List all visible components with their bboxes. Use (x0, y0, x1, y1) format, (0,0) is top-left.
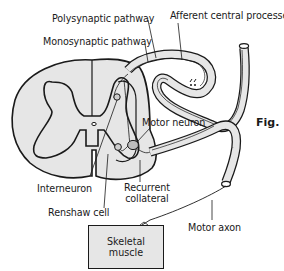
label-renshaw-cell: Renshaw cell (48, 207, 109, 218)
label-motor-axon: Motor axon (188, 222, 241, 233)
central-canal (92, 122, 96, 125)
label-polysynaptic-pathway: Polysynaptic pathway (52, 13, 154, 24)
renshaw-cell (115, 144, 122, 151)
skeletal-muscle-box: Skeletal muscle (88, 225, 164, 269)
interneuron-cell (114, 94, 120, 100)
label-interneuron: Interneuron (37, 183, 92, 194)
skeletal-muscle-label: Skeletal muscle (107, 236, 145, 258)
label-recurrent-collateral: Recurrent collateral (124, 182, 170, 204)
spinal-reflex-diagram: Polysynaptic pathway Afferent central pr… (0, 0, 284, 271)
label-recurrent-line1: Recurrent (124, 182, 170, 193)
muscle-line2: muscle (107, 247, 145, 258)
label-motor-neuron: Motor neuron (142, 117, 205, 128)
label-recurrent-line2: collateral (124, 193, 170, 204)
label-monosynaptic-pathway: Monosynaptic pathway (43, 36, 152, 47)
muscle-line1: Skeletal (107, 236, 145, 247)
ventral-root (150, 125, 236, 182)
figure-label: Fig. (256, 116, 279, 129)
label-afferent-central-processes: Afferent central processes (170, 10, 284, 21)
